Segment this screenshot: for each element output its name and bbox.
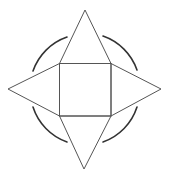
arc-top-right: [103, 36, 137, 70]
diagram-canvas: [0, 0, 169, 176]
diagram-svg: [0, 0, 169, 176]
arc-bottom-right: [103, 107, 137, 142]
arc-bottom-left: [33, 107, 67, 142]
center-square: [60, 64, 112, 117]
arc-top-left: [33, 37, 67, 71]
